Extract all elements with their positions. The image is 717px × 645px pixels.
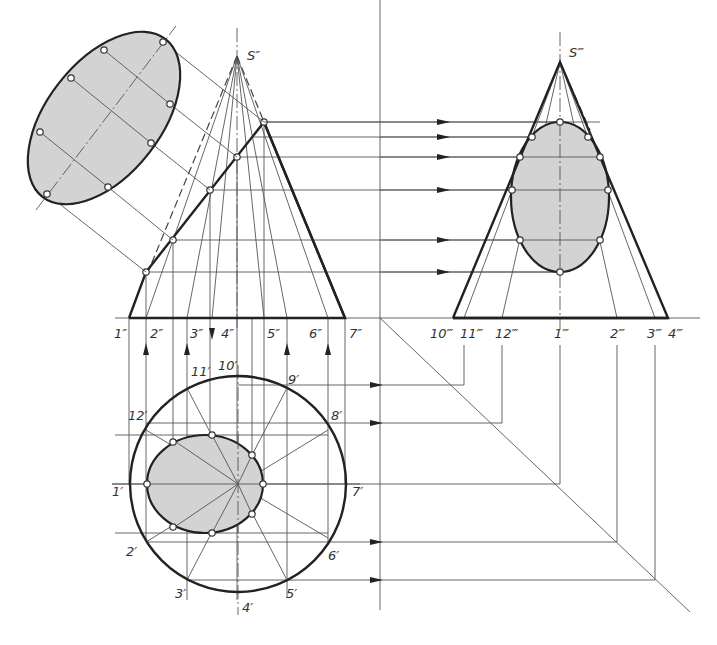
projection-arrows-horizontal-lower <box>370 382 383 583</box>
label-12p: 12′ <box>128 408 148 423</box>
projection-arrows-horizontal-upper <box>437 119 450 275</box>
label-4p: 4′ <box>242 600 253 615</box>
label-6p: 6′ <box>328 548 339 563</box>
label-7pp: 7″ <box>349 326 362 341</box>
label-9p: 9′ <box>288 372 299 387</box>
label-3p: 3′ <box>175 586 186 601</box>
label-3ppp: 3‴ <box>647 326 662 341</box>
label-2pp: 2″ <box>150 326 163 341</box>
label-11ppp: 11‴ <box>460 326 484 341</box>
label-7p: 7′ <box>352 484 363 499</box>
true-shape-view <box>0 4 264 272</box>
apex-label-front: S″ <box>247 48 260 63</box>
label-5p: 5′ <box>286 586 297 601</box>
label-10p: 10′ <box>218 358 238 373</box>
label-3pp: 3″ <box>190 326 203 341</box>
front-base-labels: 1″ 2″ 3″ 4″ 5″ 6″ 7″ <box>114 326 362 341</box>
label-1ppp: 1‴ <box>554 326 569 341</box>
label-2p: 2′ <box>126 544 137 559</box>
label-12ppp: 12‴ <box>495 326 519 341</box>
label-5pp: 5″ <box>267 326 280 341</box>
top-view <box>112 365 360 615</box>
side-view: S‴ <box>264 32 668 330</box>
apex-label-side: S‴ <box>569 45 584 60</box>
side-base-labels: 10‴ 11‴ 12‴ 1‴ 2‴ 3‴ 4‴ <box>430 326 683 341</box>
label-6pp: 6″ <box>309 326 322 341</box>
label-10ppp: 10‴ <box>430 326 454 341</box>
label-4ppp: 4‴ <box>668 326 683 341</box>
label-2ppp: 2‴ <box>610 326 625 341</box>
label-11p: 11′ <box>191 364 211 379</box>
label-1pp: 1″ <box>114 326 127 341</box>
label-8p: 8′ <box>331 408 342 423</box>
label-4pp: 4″ <box>221 326 234 341</box>
label-1p: 1′ <box>112 484 123 499</box>
drawing-canvas: S″ 1″ 2″ 3″ 4″ 5″ 6″ 7″ <box>0 0 717 645</box>
